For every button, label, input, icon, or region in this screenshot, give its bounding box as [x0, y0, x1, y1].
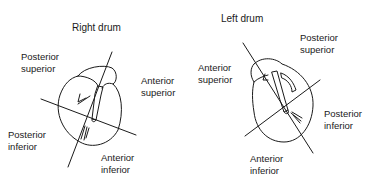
left-drum-title: Left drum — [221, 13, 263, 25]
right-drum-handle-axis — [68, 52, 112, 167]
right-drum-label-posterior-superior: Posterior superior — [21, 51, 59, 75]
right-drum-label-anterior-superior: Anterior superior — [141, 75, 175, 99]
left-drum-label-anterior-inferior: Anterior inferior — [250, 153, 283, 177]
right-drum-label-posterior-inferior: Posterior inferior — [8, 129, 46, 153]
right-drum-light-reflex — [81, 126, 89, 140]
right-drum-pars-flaccida — [78, 76, 113, 88]
left-drum-label-posterior-superior: Posterior superior — [300, 32, 338, 56]
right-drum-title: Right drum — [72, 22, 121, 34]
left-drum-label-posterior-inferior: Posterior inferior — [324, 108, 362, 132]
left-drum-label-anterior-superior: Anterior superior — [198, 62, 232, 86]
right-drum-incus — [78, 94, 90, 104]
left-drum-figure — [243, 43, 320, 153]
left-drum-outline — [251, 59, 313, 142]
eardrum-diagram — [0, 0, 370, 185]
left-drum-handle-axis — [243, 43, 313, 153]
right-drum-label-anterior-inferior: Anterior inferior — [101, 152, 134, 176]
